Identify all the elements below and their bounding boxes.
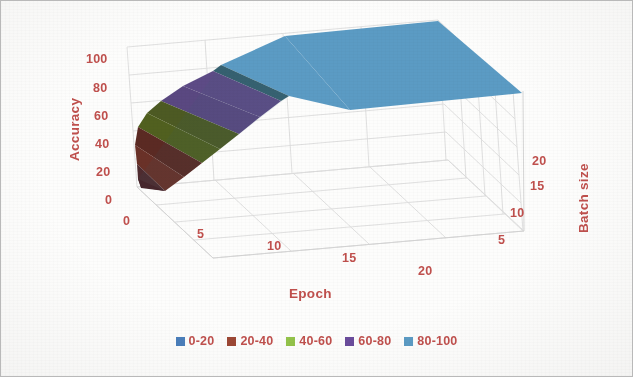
legend-label: 60-80 — [358, 334, 391, 348]
x-tick-0: 0 — [123, 214, 130, 228]
z-tick-0: 0 — [105, 193, 112, 207]
legend-swatch-icon — [345, 337, 354, 346]
y-tick-10: 10 — [510, 206, 524, 220]
x-tick-10: 10 — [267, 239, 281, 253]
legend-label: 40-60 — [299, 334, 332, 348]
z-tick-20: 20 — [96, 165, 110, 179]
z-tick-60: 60 — [94, 109, 108, 123]
z-tick-80: 80 — [93, 81, 107, 95]
legend-swatch-icon — [176, 337, 185, 346]
legend-item-60-80[interactable]: 60-80 — [345, 334, 391, 348]
y-tick-15: 15 — [530, 179, 544, 193]
legend-item-0-20[interactable]: 0-20 — [176, 334, 215, 348]
y-tick-5: 5 — [498, 233, 505, 247]
legend-item-40-60[interactable]: 40-60 — [286, 334, 332, 348]
x-tick-15: 15 — [342, 251, 356, 265]
chart-legend: 0-20 20-40 40-60 60-80 80-100 — [1, 334, 632, 348]
chart-figure: Accuracy 100 80 60 40 20 0 0 5 10 15 20 … — [0, 0, 633, 377]
legend-item-20-40[interactable]: 20-40 — [227, 334, 273, 348]
x-tick-5: 5 — [197, 227, 204, 241]
accuracy-axis-title: Accuracy — [67, 98, 82, 161]
legend-item-80-100[interactable]: 80-100 — [404, 334, 457, 348]
x-tick-20: 20 — [418, 264, 432, 278]
legend-swatch-icon — [286, 337, 295, 346]
surface-mesh — [135, 21, 522, 191]
legend-swatch-icon — [404, 337, 413, 346]
batch-size-axis-title: Batch size — [576, 163, 591, 233]
legend-swatch-icon — [227, 337, 236, 346]
z-tick-100: 100 — [86, 52, 107, 66]
legend-label: 20-40 — [240, 334, 273, 348]
z-tick-40: 40 — [95, 137, 109, 151]
y-tick-20: 20 — [532, 154, 546, 168]
legend-label: 80-100 — [417, 334, 457, 348]
epoch-axis-title: Epoch — [289, 286, 332, 301]
legend-label: 0-20 — [189, 334, 215, 348]
